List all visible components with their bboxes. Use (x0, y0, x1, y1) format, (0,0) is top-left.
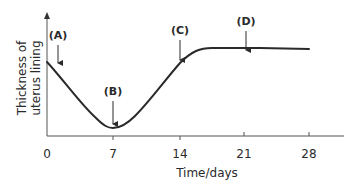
x-tick-label-14: 14 (172, 147, 187, 161)
annotation-b-label: (B) (104, 85, 122, 98)
uterus-lining-chart: 0 7 14 21 28 Time/days Thickness of uter… (0, 0, 352, 184)
x-tick-label-0: 0 (43, 147, 51, 161)
x-axis (47, 132, 344, 140)
y-axis-label-line2: uterus lining (29, 40, 43, 115)
annotation-a-label: (A) (49, 29, 68, 42)
x-axis-label: Time/days (175, 166, 238, 180)
annotation-d-label: (D) (236, 15, 255, 28)
x-tick-label-7: 7 (109, 147, 117, 161)
annotation-a: (A) (49, 29, 68, 63)
x-tick-label-21: 21 (236, 147, 251, 161)
thickness-curve (47, 48, 309, 128)
x-tick-label-28: 28 (301, 147, 316, 161)
annotation-b: (B) (104, 85, 122, 124)
annotation-c-label: (C) (171, 24, 189, 37)
y-axis-label: Thickness of uterus lining (15, 40, 43, 116)
annotation-d: (D) (236, 15, 255, 50)
y-axis-arrow-icon (44, 12, 50, 19)
annotation-c: (C) (171, 24, 189, 60)
y-axis-label-line1: Thickness of (15, 40, 29, 116)
